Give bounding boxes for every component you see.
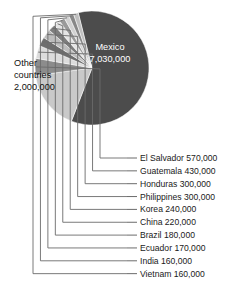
pie-label-mexico-line2: 7,030,000: [90, 54, 131, 64]
legend-vietnam[interactable]: Vietnam 160,000: [140, 269, 205, 279]
pie-label-mexico-line1: Mexico: [95, 42, 124, 52]
legend-brazil[interactable]: Brazil 180,000: [140, 230, 195, 240]
pie-label-other-countries-line3: 2,000,000: [14, 82, 55, 92]
legend-honduras[interactable]: Honduras 300,000: [140, 179, 211, 189]
legend-el-salvador[interactable]: El Salvador 570,000: [140, 153, 218, 163]
legend-guatemala[interactable]: Guatemala 430,000: [140, 166, 216, 176]
legend-philippines[interactable]: Philippines 300,000: [140, 192, 215, 202]
pie-slices-group: [35, 11, 149, 125]
legend-india[interactable]: India 160,000: [140, 256, 192, 266]
legend-korea[interactable]: Korea 240,000: [140, 204, 197, 214]
pie-label-other-countries-line2: countries: [14, 70, 52, 80]
legend-china[interactable]: China 220,000: [140, 217, 196, 227]
legend-ecuador[interactable]: Ecuador 170,000: [140, 243, 206, 253]
chart-canvas: Mexico7,030,000Othercountries2,000,000 E…: [0, 0, 240, 290]
pie-label-other-countries-line1: Other: [14, 58, 37, 68]
pie-chart-figure: Mexico7,030,000Othercountries2,000,000 E…: [0, 0, 240, 290]
